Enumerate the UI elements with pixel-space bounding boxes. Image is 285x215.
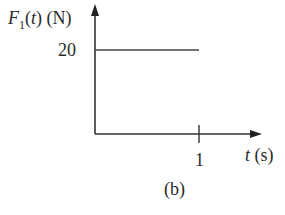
y-unit: (N) [42, 8, 72, 28]
y-axis-label: F1(t) (N) [8, 9, 72, 31]
y-tick-label: 20 [58, 41, 76, 59]
x-tick-label: 1 [195, 151, 204, 169]
x-axis-arrow-icon [250, 130, 262, 138]
x-axis-label: t (s) [245, 146, 274, 164]
y-axis-arrow-icon [91, 4, 99, 16]
caption: (b) [164, 180, 185, 198]
y-arg: (t) [25, 8, 42, 28]
y-symbol: F [8, 8, 19, 28]
plot-area [0, 0, 285, 215]
x-unit: (s) [250, 145, 274, 165]
